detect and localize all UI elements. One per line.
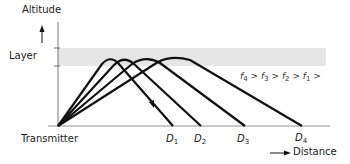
ionospheric-propagation-diagram: Altitude Layer Transmitter Distance f4 >… bbox=[0, 0, 350, 164]
ray-f2 bbox=[58, 60, 201, 126]
altitude-label: Altitude bbox=[22, 5, 61, 15]
distance-d4-label: D4 bbox=[295, 133, 307, 145]
ionospheric-layer-band bbox=[58, 48, 326, 66]
layer-label: Layer bbox=[9, 51, 37, 61]
distance-d1-label: D1 bbox=[166, 134, 178, 146]
distance-label: Distance bbox=[293, 147, 337, 157]
frequency-inequality: f4 > f3 > f2 > f1 > bbox=[240, 72, 321, 83]
ray-f4 bbox=[58, 58, 302, 126]
arrow-icon bbox=[149, 100, 154, 108]
ray-paths bbox=[58, 58, 302, 126]
ray-f3 bbox=[58, 59, 245, 126]
ray-direction-arrows bbox=[149, 100, 154, 108]
distance-d2-label: D2 bbox=[194, 134, 206, 146]
distance-d3-label: D3 bbox=[237, 134, 249, 146]
altitude-arrow-icon bbox=[40, 25, 45, 43]
transmitter-label: Transmitter bbox=[21, 134, 78, 144]
distance-arrow-icon bbox=[270, 151, 291, 156]
